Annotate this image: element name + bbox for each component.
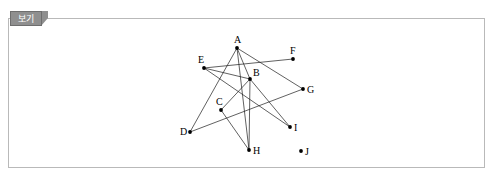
graph-node-label-h: H: [253, 145, 260, 156]
graph-node-c: [219, 108, 223, 112]
graph-node-j: [299, 149, 303, 153]
graph-node-label-j: J: [305, 146, 309, 157]
graph-node-label-a: A: [234, 34, 242, 45]
graph-edge-e-f: [204, 59, 293, 68]
graph-node-label-g: G: [307, 84, 314, 95]
graph-node-i: [288, 125, 292, 129]
graph-node-label-d: D: [180, 126, 187, 137]
graph-diagram: ABCDEFGHIJ: [0, 0, 495, 179]
graph-edge-b-c: [221, 79, 250, 110]
graph-node-e: [202, 66, 206, 70]
graph-node-h: [247, 148, 251, 152]
example-tab-label: 보기: [10, 11, 42, 26]
graph-node-f: [291, 57, 295, 61]
graph-edge-e-b: [204, 68, 250, 79]
screenshot-root: 보기 ABCDEFGHIJ: [0, 0, 495, 179]
graph-edge-b-i: [250, 79, 290, 127]
graph-node-label-i: I: [294, 122, 297, 133]
graph-node-b: [248, 77, 252, 81]
graph-edge-d-g: [190, 89, 303, 132]
graph-node-label-e: E: [198, 54, 204, 65]
graph-node-d: [188, 130, 192, 134]
graph-edge-b-h: [249, 79, 250, 150]
graph-node-label-c: C: [216, 96, 223, 107]
graph-node-g: [301, 87, 305, 91]
graph-nodes-layer: ABCDEFGHIJ: [180, 34, 314, 157]
graph-node-label-b: B: [253, 67, 260, 78]
graph-node-a: [235, 46, 239, 50]
graph-edges-layer: [190, 48, 303, 150]
graph-node-label-f: F: [290, 45, 296, 56]
